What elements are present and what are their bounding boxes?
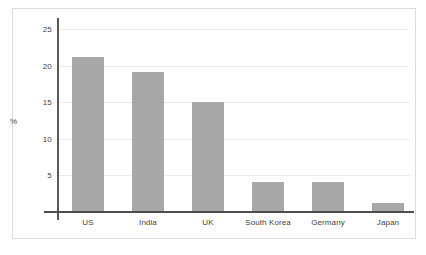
y-axis-tick-labels: 25 20 15 10 5 [22,22,52,212]
y-tick-label-15: 15 [43,98,52,107]
y-tick-label-10: 10 [43,134,52,143]
y-tick-label-20: 20 [43,61,52,70]
y-tick-label-5: 5 [47,171,52,180]
x-tick-label-germany: Germany [311,218,345,227]
y-axis-title: % [10,117,17,126]
y-tick-label-25: 25 [43,25,52,34]
x-tick-label-us: US [82,218,93,227]
x-tick-label-india: India [139,218,157,227]
x-tick-label-uk: UK [202,218,213,227]
bar-chart-figure: 25 20 15 10 5 % US India UK South Korea … [0,0,426,255]
x-tick-label-japan: Japan [377,218,399,227]
x-tick-label-south-korea: South Korea [245,218,291,227]
x-axis-tick-labels: US India UK South Korea Germany Japan [58,0,410,255]
